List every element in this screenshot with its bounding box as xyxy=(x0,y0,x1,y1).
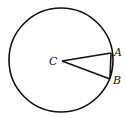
diagram-canvas: C A B xyxy=(0,0,126,118)
segment-CB xyxy=(62,61,110,79)
segment-CA xyxy=(62,53,111,61)
label-B: B xyxy=(112,74,121,87)
circle xyxy=(9,8,113,112)
label-A: A xyxy=(113,46,122,59)
label-C: C xyxy=(49,55,58,68)
chord-AB xyxy=(110,53,111,79)
